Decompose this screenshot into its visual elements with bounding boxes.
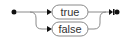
end-arrow-icon (109, 9, 113, 15)
choice-false-label: false (58, 23, 81, 35)
choice-true: true (52, 5, 88, 19)
arrow-true-icon (47, 9, 52, 15)
choice-false: false (52, 22, 88, 36)
track-merge (88, 12, 106, 29)
arrow-false-icon (47, 26, 52, 32)
railroad-diagram: true false (0, 0, 129, 50)
choice-true-label: true (61, 6, 80, 18)
start-dot-icon (12, 10, 17, 15)
end-bar-icon (113, 9, 115, 15)
end-dot-icon (115, 10, 120, 15)
